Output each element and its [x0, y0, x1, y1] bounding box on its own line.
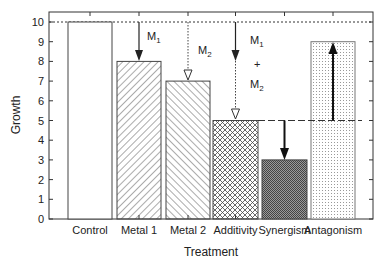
x-label-synergism: Synergism — [259, 224, 311, 236]
open-arrow-head-icon — [232, 109, 240, 119]
y-tick-3: 3 — [38, 154, 44, 166]
additivity-arrow — [232, 22, 240, 119]
arrow-head-icon — [232, 50, 240, 61]
x-label-metal-1: Metal 1 — [121, 224, 157, 236]
m1-arrow — [135, 22, 143, 61]
x-tick-labels: Control Metal 1 Metal 2 Additivity Syner… — [72, 224, 362, 236]
y-tick-1: 1 — [38, 193, 44, 205]
open-arrow-head-icon — [184, 70, 192, 80]
y-tick-8: 8 — [38, 55, 44, 67]
y-tick-9: 9 — [38, 36, 44, 48]
y-tick-4: 4 — [38, 134, 44, 146]
m2-label: M2 — [198, 44, 212, 59]
bar-additivity — [213, 121, 258, 220]
plus-sign: + — [254, 58, 260, 70]
arrow-head-icon — [280, 148, 289, 160]
bar-synergism — [262, 160, 307, 219]
y-tick-6: 6 — [38, 95, 44, 107]
y-tick-labels: 0 1 2 3 4 5 6 7 8 9 10 — [32, 16, 44, 225]
bar-control — [68, 22, 112, 219]
bar-metal-1 — [117, 61, 161, 219]
x-label-additivity: Additivity — [213, 224, 258, 236]
y-tick-2: 2 — [38, 174, 44, 186]
arrow-head-icon — [135, 50, 143, 61]
y-tick-7: 7 — [38, 75, 44, 87]
y-tick-10: 10 — [32, 16, 44, 28]
m2-arrow — [184, 22, 192, 80]
synergism-arrow — [280, 121, 289, 161]
x-axis-title: Treatment — [184, 245, 239, 259]
x-label-antagonism: Antagonism — [304, 224, 362, 236]
m1-plus-label: M1 — [250, 34, 264, 49]
m1-label: M1 — [147, 30, 161, 45]
x-label-control: Control — [72, 224, 107, 236]
m2-plus-label: M2 — [250, 78, 264, 93]
y-axis-title: Growth — [9, 96, 23, 135]
y-tick-5: 5 — [38, 115, 44, 127]
growth-bar-chart: 0 1 2 3 4 5 6 7 8 9 10 M1 — [0, 0, 384, 263]
x-label-metal-2: Metal 2 — [170, 224, 206, 236]
y-tick-0: 0 — [38, 213, 44, 225]
bar-metal-2 — [166, 81, 210, 219]
